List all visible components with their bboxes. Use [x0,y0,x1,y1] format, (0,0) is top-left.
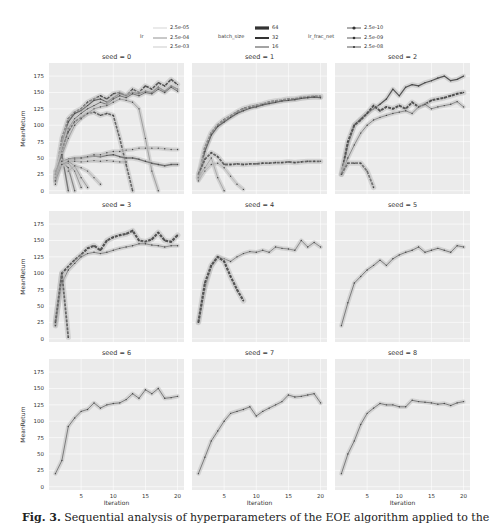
x-tick-label: 5 [222,493,226,499]
caption-label: Fig. 3. [22,511,61,524]
panel-seed-4: seed = 4 [192,201,327,342]
y-tick-label: 25 [37,319,44,325]
panel-seed-3: seed = 30255075100125150175MeanReturn [19,201,184,342]
x-axis-label: Iteration [390,499,416,506]
panel-title: seed = 4 [245,201,274,209]
panel-seed-2: seed = 2 [335,53,470,194]
x-tick-label: 5 [79,493,83,499]
caption-text: Sequential analysis of hyperparameters o… [64,511,489,524]
panel-title: seed = 1 [245,53,274,61]
y-tick-label: 75 [37,435,44,441]
y-axis-label: MeanReturn [19,406,26,442]
y-tick-label: 100 [34,122,45,128]
y-tick-label: 0 [41,484,45,490]
y-tick-label: 175 [34,221,45,227]
y-axis-label: MeanReturn [19,258,26,294]
facet-grid-chart: seed = 00255075100125150175MeanReturnsee… [0,0,492,527]
x-axis-label: Iteration [247,499,273,506]
y-tick-label: 75 [37,139,44,145]
y-tick-label: 75 [37,287,44,293]
y-tick-label: 150 [34,385,45,391]
y-tick-label: 50 [37,303,44,309]
panel-seed-0: seed = 00255075100125150175MeanReturn [19,53,184,194]
panel-title: seed = 6 [102,349,131,357]
panel-title: seed = 5 [388,201,417,209]
figure-caption: Fig. 3. Sequential analysis of hyperpara… [22,511,489,524]
y-tick-label: 175 [34,73,45,79]
panel-seed-6: seed = 60255075100125150175MeanReturn510… [19,349,184,506]
panel-title: seed = 7 [245,349,274,357]
y-tick-label: 175 [34,369,45,375]
x-tick-label: 20 [317,493,324,499]
x-tick-label: 15 [428,493,435,499]
y-tick-label: 150 [34,89,45,95]
y-tick-label: 0 [41,336,45,342]
panel-seed-8: seed = 85101520Iteration [335,349,470,506]
panel-seed-7: seed = 75101520Iteration [192,349,327,506]
x-tick-label: 20 [460,493,467,499]
y-tick-label: 25 [37,171,44,177]
y-tick-label: 50 [37,451,44,457]
panel-seed-5: seed = 5 [335,201,470,342]
panel-title: seed = 3 [102,201,131,209]
x-tick-label: 20 [174,493,181,499]
panel-seed-1: seed = 1 [192,53,327,194]
panel-title: seed = 2 [388,53,417,61]
panel-title: seed = 0 [102,53,131,61]
y-tick-label: 125 [34,106,45,112]
y-tick-label: 50 [37,155,44,161]
y-tick-label: 125 [34,254,45,260]
panel-title: seed = 8 [388,349,417,357]
x-tick-label: 5 [365,493,369,499]
x-axis-label: Iteration [104,499,130,506]
y-tick-label: 25 [37,467,44,473]
y-tick-label: 125 [34,402,45,408]
y-tick-label: 100 [34,270,45,276]
x-tick-label: 15 [285,493,292,499]
y-tick-label: 150 [34,237,45,243]
y-axis-label: MeanReturn [19,110,26,146]
x-tick-label: 15 [142,493,149,499]
y-tick-label: 0 [41,188,45,194]
y-tick-label: 100 [34,418,45,424]
